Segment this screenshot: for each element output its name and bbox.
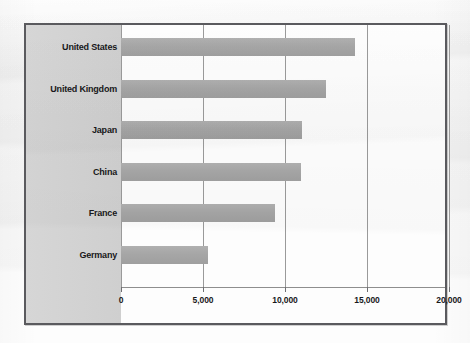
category-label-united-states: United States [62, 42, 117, 52]
gridline-20000 [449, 25, 450, 287]
bar-germany [121, 246, 208, 264]
x-tick-5000 [203, 287, 204, 292]
bar-row: United States [121, 38, 445, 56]
x-tick-10000 [285, 287, 286, 292]
x-tick-label-0: 0 [119, 295, 124, 305]
bar-japan [121, 121, 302, 139]
bar-row: France [121, 204, 445, 222]
bar-france [121, 204, 275, 222]
x-tick-15000 [367, 287, 368, 292]
chart-frame: United StatesUnited KingdomJapanChinaFra… [24, 23, 447, 325]
plot-area: United StatesUnited KingdomJapanChinaFra… [121, 25, 445, 323]
bar-united-kingdom [121, 80, 326, 98]
category-label-france: France [89, 208, 117, 218]
bar-row: United Kingdom [121, 80, 445, 98]
x-tick-label-10000: 10,000 [272, 295, 297, 305]
bar-united-states [121, 38, 355, 56]
x-axis-line [121, 287, 445, 288]
category-label-china: China [93, 167, 117, 177]
x-tick-label-20000: 20,000 [436, 295, 461, 305]
x-tick-label-15000: 15,000 [354, 295, 379, 305]
bar-row: Japan [121, 121, 445, 139]
scanned-page: United StatesUnited KingdomJapanChinaFra… [0, 0, 470, 343]
bar-row: China [121, 163, 445, 181]
x-tick-0 [121, 287, 122, 292]
bar-row: Germany [121, 246, 445, 264]
x-tick-label-5000: 5,000 [193, 295, 214, 305]
x-tick-20000 [449, 287, 450, 292]
category-label-united-kingdom: United Kingdom [50, 84, 117, 94]
bar-china [121, 163, 301, 181]
category-label-japan: Japan [92, 125, 117, 135]
category-label-germany: Germany [79, 250, 117, 260]
